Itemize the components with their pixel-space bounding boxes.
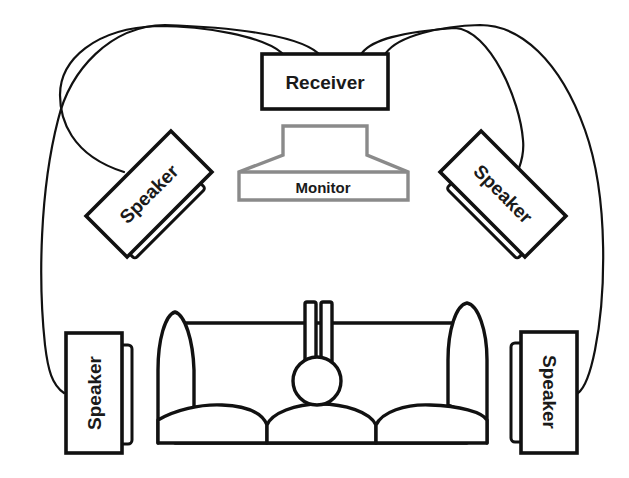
receiver-label: Receiver bbox=[285, 72, 365, 93]
listener-head bbox=[293, 357, 341, 405]
receiver: Receiver bbox=[262, 54, 388, 109]
speaker-label: Speaker bbox=[84, 355, 105, 430]
speaker-front-right: Speaker bbox=[435, 131, 566, 262]
sofa-cushion-right bbox=[376, 405, 487, 443]
sofa-cushion-middle bbox=[267, 404, 376, 443]
speaker-label: Speaker bbox=[539, 355, 560, 430]
listener-left-leg bbox=[305, 302, 316, 364]
speaker-front-left: Speaker bbox=[86, 131, 217, 262]
speaker-rear-right: Speaker bbox=[511, 332, 577, 453]
monitor: Monitor bbox=[239, 126, 408, 200]
monitor-label: Monitor bbox=[296, 179, 351, 196]
listener-right-leg bbox=[321, 302, 332, 364]
speaker-rear-left: Speaker bbox=[66, 333, 132, 453]
home-theater-diagram: Receiver Monitor Speaker Speaker Speaker… bbox=[0, 0, 629, 478]
